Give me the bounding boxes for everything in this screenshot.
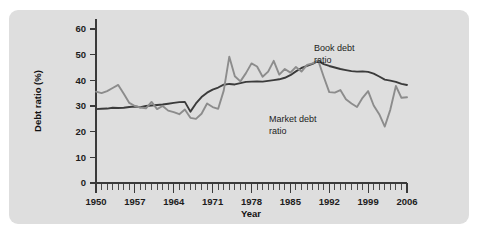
y-tick-label: 20 xyxy=(75,126,86,137)
y-axis-title: Debt ratio (%) xyxy=(32,70,43,132)
y-axis-ticks xyxy=(90,29,96,183)
x-tick-label: 1971 xyxy=(202,196,224,207)
x-axis: 195019571964197119781985199219992006 Yea… xyxy=(85,183,417,219)
x-axis-minor-ticks xyxy=(96,183,407,193)
series-book-debt-ratio xyxy=(96,61,407,112)
market-debt-ratio-label-line2: ratio xyxy=(269,126,287,136)
book-debt-ratio-label-line1: Book debt xyxy=(314,43,355,53)
x-tick-label: 1964 xyxy=(163,196,185,207)
x-tick-label: 1978 xyxy=(241,196,262,207)
x-tick-label: 1992 xyxy=(319,196,340,207)
x-tick-label: 1957 xyxy=(124,196,145,207)
x-axis-tick-labels: 195019571964197119781985199219992006 xyxy=(85,196,417,207)
y-tick-label: 30 xyxy=(75,100,86,111)
chart-series-group xyxy=(96,57,407,127)
book-debt-ratio-label: Book debt ratio xyxy=(314,43,355,65)
chart-panel: 0102030405060 Debt ratio (%) 19501957196… xyxy=(9,10,469,224)
book-debt-ratio-label-line2: ratio xyxy=(314,55,332,65)
x-tick-label: 1950 xyxy=(85,196,106,207)
x-tick-label: 1999 xyxy=(358,196,379,207)
y-axis: 0102030405060 Debt ratio (%) xyxy=(32,19,96,188)
market-debt-ratio-label-line1: Market debt xyxy=(269,114,317,124)
y-tick-label: 60 xyxy=(75,23,86,34)
series-market-debt-ratio xyxy=(96,57,407,127)
y-tick-label: 50 xyxy=(75,49,86,60)
debt-ratio-line-chart: 0102030405060 Debt ratio (%) 19501957196… xyxy=(9,10,469,224)
y-tick-label: 40 xyxy=(75,75,86,86)
x-tick-label: 2006 xyxy=(396,196,417,207)
market-debt-ratio-label: Market debt ratio xyxy=(269,114,317,136)
x-axis-title: Year xyxy=(241,208,261,219)
y-tick-label: 0 xyxy=(81,177,86,188)
x-tick-label: 1985 xyxy=(280,196,302,207)
y-axis-tick-labels: 0102030405060 xyxy=(75,23,86,188)
y-tick-label: 10 xyxy=(75,152,86,163)
